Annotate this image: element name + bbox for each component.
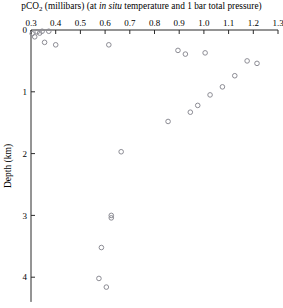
data-point — [53, 43, 58, 48]
y-tick-label: 4 — [23, 272, 28, 282]
data-point — [203, 51, 208, 56]
x-tick-label: 0.7 — [124, 18, 136, 28]
data-point — [166, 119, 171, 124]
x-tick-label: 1.3 — [272, 18, 283, 28]
figure-container: pCO2 (millibars) (at in situ temperature… — [0, 0, 283, 308]
x-tick-label: 1.1 — [223, 18, 234, 28]
data-points-group — [30, 29, 259, 289]
y-tick-label: 2 — [23, 149, 28, 159]
y-tick-label: 0 — [23, 25, 28, 35]
y-axis-ticks: 01234 — [23, 25, 36, 282]
data-point — [42, 40, 47, 45]
data-point — [188, 110, 193, 115]
data-point — [107, 43, 112, 48]
x-tick-label: 0.6 — [99, 18, 111, 28]
data-point — [208, 93, 213, 98]
scatter-plot: 0.30.40.50.60.70.80.91.01.11.21.3 01234 … — [0, 0, 283, 308]
y-axis-title: Depth (km) — [3, 144, 14, 188]
x-tick-label: 0.4 — [50, 18, 62, 28]
data-point — [99, 245, 104, 250]
data-point — [97, 276, 102, 281]
x-tick-label: 0.9 — [174, 18, 186, 28]
x-tick-label: 1.0 — [198, 18, 210, 28]
data-point — [32, 35, 37, 40]
x-tick-label: 0.8 — [149, 18, 161, 28]
data-point — [176, 48, 181, 53]
data-point — [232, 73, 237, 78]
y-tick-label: 1 — [23, 87, 28, 97]
data-point — [245, 59, 250, 64]
x-tick-label: 0.5 — [75, 18, 87, 28]
data-point — [119, 149, 124, 154]
data-point — [255, 61, 260, 66]
data-point — [183, 52, 188, 57]
data-point — [195, 103, 200, 108]
y-tick-label: 3 — [23, 211, 28, 221]
x-axis-ticks: 0.30.40.50.60.70.80.91.01.11.21.3 — [25, 18, 283, 35]
data-point — [104, 285, 109, 290]
x-tick-label: 0.3 — [25, 18, 37, 28]
x-tick-label: 1.2 — [248, 18, 259, 28]
data-point — [220, 85, 225, 90]
